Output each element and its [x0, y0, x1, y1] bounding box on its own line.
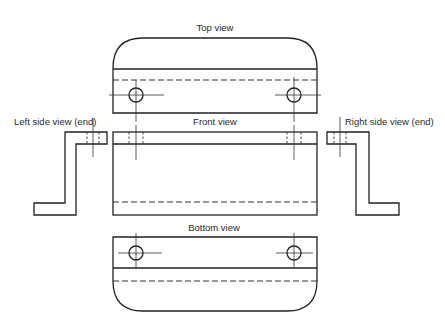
left-side-view-label: Left side view (end)	[14, 116, 96, 127]
bottom-view-outline	[113, 237, 317, 311]
top-view-label: Top view	[197, 22, 234, 33]
right-side-view-label: Right side view (end)	[345, 116, 434, 127]
left-side-view-outline	[34, 132, 107, 215]
front-view-label: Front view	[193, 116, 237, 127]
orthographic-drawing: Top view Front view Left side view (end)	[0, 0, 445, 330]
front-view: Front view	[113, 116, 317, 215]
top-view: Top view	[109, 22, 321, 122]
bottom-view: Bottom view	[113, 222, 317, 311]
right-side-view-outline	[327, 132, 399, 215]
left-side-view: Left side view (end)	[14, 116, 107, 215]
right-side-view: Right side view (end)	[327, 116, 434, 215]
top-view-outline	[113, 38, 317, 113]
bottom-view-label: Bottom view	[188, 222, 240, 233]
